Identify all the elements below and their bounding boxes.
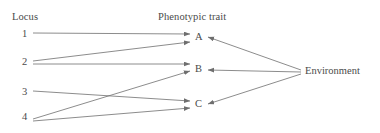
locus-column-header: Locus [12, 12, 38, 23]
edges [33, 33, 301, 121]
edge-environment-to-b [208, 70, 301, 72]
phenotypic-trait-column-header: Phenotypic trait [158, 12, 226, 23]
edge-environment-to-a [208, 37, 301, 70]
edge-environment-to-c [208, 74, 301, 104]
locus-node-3[interactable]: 3 [22, 87, 27, 98]
diagram-canvas: Locus Phenotypic trait 1 2 3 4 A B C Env… [0, 0, 380, 133]
edge-4-to-c [33, 108, 190, 121]
edge-1-to-a [33, 33, 190, 34]
edge-3-to-c [33, 91, 190, 101]
trait-node-a[interactable]: A [195, 32, 203, 43]
environment-node[interactable]: Environment [305, 66, 360, 77]
trait-node-b[interactable]: B [195, 64, 202, 75]
locus-node-1[interactable]: 1 [22, 29, 27, 40]
locus-node-4[interactable]: 4 [22, 112, 27, 123]
edge-2-to-a [33, 42, 190, 61]
locus-node-2[interactable]: 2 [22, 57, 27, 68]
edge-4-to-b [33, 71, 190, 119]
trait-node-c[interactable]: C [195, 99, 202, 110]
